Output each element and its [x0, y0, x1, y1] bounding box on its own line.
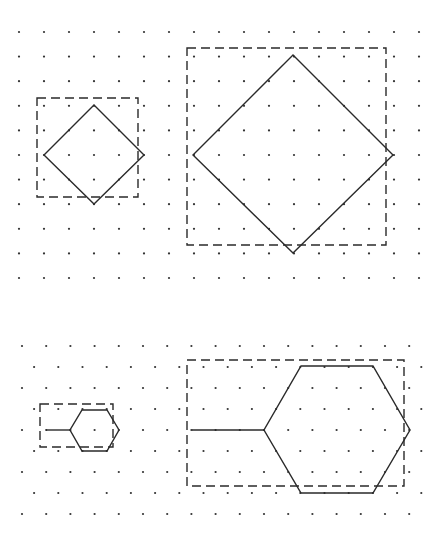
- grid-dot: [118, 228, 120, 230]
- grid-dot: [190, 471, 192, 473]
- grid-dot: [368, 277, 370, 279]
- grid-dot: [57, 408, 59, 410]
- grid-dot: [393, 105, 395, 107]
- grid-dot: [57, 492, 59, 494]
- grid-dot: [68, 277, 70, 279]
- grid-dot: [178, 366, 180, 368]
- grid-dot: [311, 345, 313, 347]
- grid-dot: [243, 154, 245, 156]
- grid-dot: [393, 31, 395, 33]
- grid-dot: [154, 492, 156, 494]
- grid-dot: [268, 129, 270, 131]
- grid-dot: [227, 492, 229, 494]
- grid-dot: [218, 105, 220, 107]
- grid-dot: [168, 203, 170, 205]
- large-hexagon-figure: [187, 360, 410, 493]
- grid-dot: [227, 408, 229, 410]
- grid-dot: [360, 429, 362, 431]
- grid-dot: [243, 179, 245, 181]
- grid-dot: [81, 366, 83, 368]
- grid-dot: [193, 56, 195, 58]
- grid-dot: [118, 513, 120, 515]
- grid-dot: [130, 492, 132, 494]
- grid-dot: [142, 513, 144, 515]
- grid-dot: [287, 513, 289, 515]
- grid-dot: [368, 105, 370, 107]
- grid-dot: [43, 228, 45, 230]
- grid-dot: [154, 450, 156, 452]
- grid-dot: [384, 429, 386, 431]
- grid-dot: [202, 366, 204, 368]
- grid-dot: [293, 154, 295, 156]
- grid-dot: [408, 513, 410, 515]
- grid-dot: [393, 203, 395, 205]
- grid-dot: [68, 80, 70, 82]
- grid-dot: [263, 513, 265, 515]
- grid-dot: [93, 154, 95, 156]
- grid-dot: [368, 252, 370, 254]
- grid-dot: [343, 31, 345, 33]
- grid-dot: [218, 56, 220, 58]
- grid-dot: [393, 56, 395, 58]
- grid-dot: [318, 179, 320, 181]
- grid-dot: [348, 450, 350, 452]
- grid-dot: [318, 31, 320, 33]
- grid-dot: [239, 513, 241, 515]
- grid-dot: [263, 471, 265, 473]
- grid-dot: [130, 408, 132, 410]
- grid-dot: [202, 450, 204, 452]
- grid-dot: [215, 471, 217, 473]
- grid-dot: [368, 154, 370, 156]
- grid-dot: [168, 129, 170, 131]
- grid-dot: [68, 105, 70, 107]
- grid-dot: [293, 80, 295, 82]
- grid-dot: [251, 450, 253, 452]
- grid-dot: [311, 387, 313, 389]
- grid-dot: [93, 31, 95, 33]
- grid-dot: [178, 408, 180, 410]
- grid-dot: [43, 179, 45, 181]
- grid-dot: [178, 450, 180, 452]
- grid-dot: [360, 471, 362, 473]
- grid-dot: [69, 345, 71, 347]
- grid-dot: [418, 228, 420, 230]
- grid-dot: [168, 154, 170, 156]
- grid-dot: [143, 252, 145, 254]
- grid-dot: [18, 31, 20, 33]
- grid-dot: [106, 492, 108, 494]
- grid-dot: [94, 345, 96, 347]
- grid-dot: [311, 471, 313, 473]
- grid-dot: [243, 252, 245, 254]
- grid-dot: [166, 513, 168, 515]
- grid-dot: [45, 345, 47, 347]
- grid-dot: [243, 80, 245, 82]
- grid-dot: [336, 513, 338, 515]
- grid-dot: [43, 56, 45, 58]
- grid-dot: [263, 387, 265, 389]
- grid-dot: [243, 277, 245, 279]
- grid-dot: [227, 450, 229, 452]
- grid-dot: [21, 471, 23, 473]
- grid-dot: [343, 252, 345, 254]
- grid-dot: [343, 179, 345, 181]
- grid-dot: [143, 277, 145, 279]
- large-diamond-bounding-box: [187, 48, 386, 245]
- grid-dot: [154, 366, 156, 368]
- grid-dot: [336, 471, 338, 473]
- grid-dot: [94, 387, 96, 389]
- grid-dot: [130, 450, 132, 452]
- grid-dot: [408, 471, 410, 473]
- grid-dot: [43, 80, 45, 82]
- grid-dot: [336, 429, 338, 431]
- grid-dot: [68, 252, 70, 254]
- grid-dot: [18, 252, 20, 254]
- grid-dot: [45, 387, 47, 389]
- grid-dot: [218, 252, 220, 254]
- grid-dot: [418, 105, 420, 107]
- grid-dot: [384, 513, 386, 515]
- grid-dot: [360, 513, 362, 515]
- grid-dot: [243, 228, 245, 230]
- grid-dot: [193, 31, 195, 33]
- grid-dot: [268, 252, 270, 254]
- grid-dot: [263, 345, 265, 347]
